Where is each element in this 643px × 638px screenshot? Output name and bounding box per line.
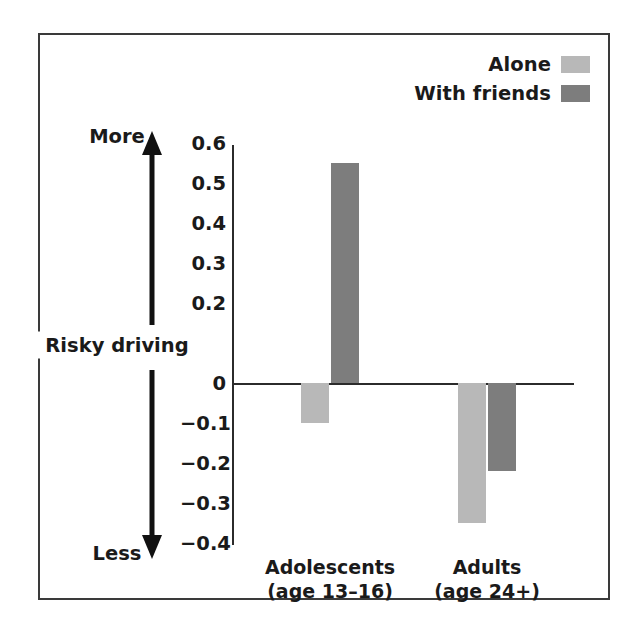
y-tick-label: −0.1 bbox=[180, 412, 226, 435]
y-tick-label: 0.2 bbox=[180, 292, 226, 315]
legend-item-with-friends: With friends bbox=[414, 82, 590, 105]
y-tick-label: 0.6 bbox=[180, 132, 226, 155]
zero-baseline bbox=[232, 383, 574, 385]
y-tick-label: 0 bbox=[180, 372, 226, 395]
chart-legend: Alone With friends bbox=[414, 53, 590, 105]
legend-label-alone: Alone bbox=[488, 53, 551, 76]
y-tick-label: 0.4 bbox=[180, 212, 226, 235]
bar-with-friends-group-0 bbox=[331, 163, 359, 383]
legend-item-alone: Alone bbox=[488, 53, 590, 76]
legend-label-with-friends: With friends bbox=[414, 82, 551, 105]
y-tick-label: −0.3 bbox=[180, 492, 226, 515]
y-tick-label: −0.4 bbox=[180, 532, 226, 555]
legend-swatch-with-friends bbox=[561, 85, 590, 102]
x-axis-category-label: Adults(age 24+) bbox=[377, 556, 597, 604]
bar-with-friends-group-1 bbox=[488, 383, 516, 471]
y-axis-tick-labels: 0.60.50.40.30.20.10−0.1−0.2−0.3−0.4 bbox=[178, 0, 226, 638]
bar-alone-group-1 bbox=[458, 383, 486, 523]
y-axis-line bbox=[232, 145, 234, 545]
legend-swatch-alone bbox=[561, 56, 590, 73]
risky-driving-direction-annotation: More Risky driving Less bbox=[52, 125, 182, 565]
direction-label-less: Less bbox=[52, 542, 182, 565]
y-tick-label: 0.3 bbox=[180, 252, 226, 275]
direction-label-risky-driving: Risky driving bbox=[4, 332, 230, 359]
category-label-line: (age 24+) bbox=[377, 580, 597, 604]
y-tick-label: 0.5 bbox=[180, 172, 226, 195]
category-label-line: Adults bbox=[377, 556, 597, 580]
y-tick-label: −0.2 bbox=[180, 452, 226, 475]
bar-alone-group-0 bbox=[301, 383, 329, 423]
